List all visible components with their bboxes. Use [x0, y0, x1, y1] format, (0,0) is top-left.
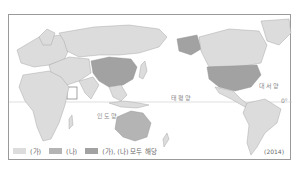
map-legend: (가) (나) (가), (나) 모두 해당: [13, 146, 157, 156]
legend-label-both: (가), (나) 모두 해당: [102, 146, 156, 156]
region-southeast-asia: [109, 85, 127, 101]
legend-swatch-both: [85, 148, 98, 154]
legend-label-na: (나): [66, 146, 77, 156]
legend-item-both: (가), (나) 모두 해당: [85, 146, 156, 156]
region-india: [79, 77, 99, 99]
legend-swatch-na: [49, 148, 62, 154]
region-new-zealand: [163, 133, 169, 147]
world-map: [9, 15, 292, 161]
legend-item-na: (나): [49, 146, 77, 156]
legend-item-ga: (가): [13, 146, 41, 156]
ocean-label-indian: 인도양: [97, 111, 118, 120]
legend-label-ga: (가): [30, 146, 41, 156]
region-japan: [139, 61, 147, 79]
region-australia: [115, 111, 151, 141]
region-south-america: [243, 99, 281, 155]
region-alaska: [177, 35, 201, 55]
ocean-label-pacific: 태평양: [171, 93, 192, 102]
region-africa: [19, 71, 69, 141]
region-china: [91, 57, 137, 87]
region-madagascar: [69, 115, 73, 129]
region-russia: [59, 25, 167, 57]
region-canada: [199, 29, 267, 67]
legend-swatch-ga: [13, 148, 26, 154]
region-greenland: [261, 19, 291, 45]
map-frame: 인도양 태평양 대서양 0° (가) (나) (가), (나) 모두 해당 (2…: [8, 14, 291, 160]
equator-label: 0°: [281, 97, 288, 104]
ocean-label-atlantic: 대서양: [259, 81, 280, 90]
year-label: (2014): [264, 148, 284, 155]
